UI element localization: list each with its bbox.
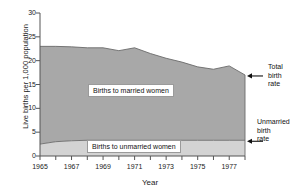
y-tick-label: 0 xyxy=(16,152,36,160)
annotation-total-line2: birth xyxy=(268,72,283,81)
y-tick-label: 25 xyxy=(16,33,36,41)
annotation-unmarried-birth-rate: Unmarried birth rate xyxy=(257,118,290,144)
x-tick-label: 1975 xyxy=(185,163,211,171)
annotation-unmarried-line2: birth xyxy=(257,127,290,136)
label-births-to-married-women: Births to married women xyxy=(88,84,174,97)
x-tick-label: 1969 xyxy=(90,163,116,171)
y-tick-label: 5 xyxy=(16,128,36,136)
y-tick-label: 10 xyxy=(16,104,36,112)
annotation-total-birth-rate: Total birth rate xyxy=(268,63,283,89)
annotation-unmarried-line1: Unmarried xyxy=(257,118,290,127)
y-tick-label: 30 xyxy=(16,9,36,17)
y-tick-label: 15 xyxy=(16,81,36,89)
annotation-total-line1: Total xyxy=(268,63,283,72)
y-tick-label: 20 xyxy=(16,57,36,65)
x-tick-label: 1971 xyxy=(122,163,148,171)
x-tick-label: 1973 xyxy=(153,163,179,171)
x-axis-title: Year xyxy=(80,178,220,187)
arrow-total-birth-rate xyxy=(247,73,263,78)
label-births-to-unmarried-women: Births to unmarried women xyxy=(87,140,181,153)
x-tick-label: 1967 xyxy=(59,163,85,171)
chart-figure: Live births per 1,000 population Year Bi… xyxy=(0,0,299,192)
annotation-total-line3: rate xyxy=(268,80,283,89)
y-axis-title: Live births per 1,000 population xyxy=(21,7,30,147)
x-tick-label: 1965 xyxy=(27,163,53,171)
annotation-unmarried-line3: rate xyxy=(257,135,290,144)
x-tick-label: 1977 xyxy=(216,163,242,171)
